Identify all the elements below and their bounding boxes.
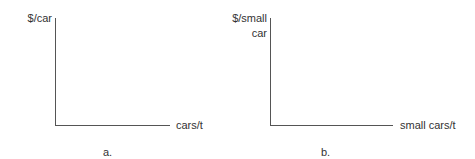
panel-caption-b: b. xyxy=(321,146,330,158)
y-axis-b xyxy=(270,18,271,126)
y-axis-label-b-line-2: car xyxy=(220,27,267,39)
diagram-panel-b: $/small car small cars/t b. xyxy=(0,0,475,159)
y-axis-label-b: $/small car xyxy=(220,12,267,39)
x-axis-b xyxy=(270,125,393,126)
y-axis-label-b-line-1: $/small xyxy=(220,12,267,24)
x-axis-label-b: small cars/t xyxy=(400,119,456,131)
